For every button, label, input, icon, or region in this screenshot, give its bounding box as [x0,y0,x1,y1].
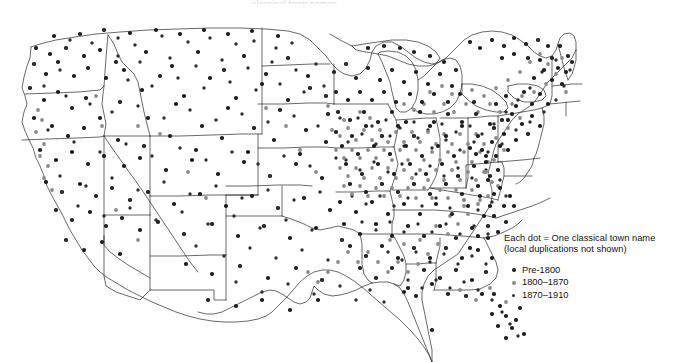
map-legend: Each dot = One classical town name (loca… [504,233,676,302]
legend-items: Pre-1800 1800–1870 1870–1910 [512,264,676,302]
legend-label-1800-1870: 1800–1870 [522,276,569,289]
legend-dot-pre-1800-icon [512,268,522,272]
legend-dot-1870-1910-icon [512,294,522,297]
legend-item-1800-1870: 1800–1870 [512,276,676,289]
dot-layer-pre-1800 [28,28,574,340]
legend-label-pre-1800: Pre-1800 [522,264,560,277]
dot-layer-1870-1910 [42,34,571,337]
us-dot-map [0,0,678,362]
legend-label-1870-1910: 1870–1910 [522,289,569,302]
legend-caption: Each dot = One classical town name (loca… [504,233,676,256]
legend-item-1870-1910: 1870–1910 [512,289,676,302]
legend-dot-1800-1870-icon [512,281,522,285]
dot-density-map-figure: classical town names [0,0,678,362]
legend-item-pre-1800: Pre-1800 [512,264,676,277]
